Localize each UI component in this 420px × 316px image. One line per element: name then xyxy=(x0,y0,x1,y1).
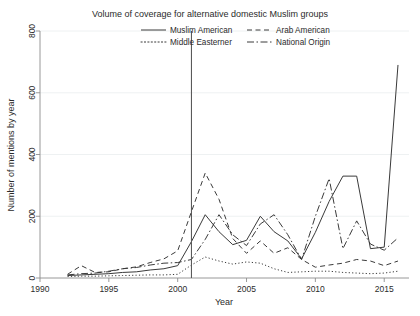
chart-legend: Muslim AmericanArab AmericanMiddle Easte… xyxy=(141,26,331,47)
tick-marks xyxy=(36,31,384,282)
gridlines xyxy=(40,31,409,216)
y-tick-label: 200 xyxy=(27,209,37,223)
y-tick-label: 600 xyxy=(27,85,37,99)
legend-label: Arab American xyxy=(276,26,330,35)
x-tick-label: 2015 xyxy=(375,284,394,294)
legend-label: National Origin xyxy=(276,38,331,47)
x-axis-title: Year xyxy=(215,297,233,307)
tick-labels: 0200400600800199019952000200520102015 xyxy=(27,24,394,294)
legend-label: Middle Easterner xyxy=(170,38,232,47)
series-line-arab-american xyxy=(68,173,398,274)
x-tick-label: 2000 xyxy=(168,284,187,294)
series-line-national-origin xyxy=(68,179,398,275)
series-lines xyxy=(68,65,398,277)
x-tick-label: 2005 xyxy=(237,284,256,294)
x-tick-label: 2010 xyxy=(306,284,325,294)
series-line-muslim-american xyxy=(68,65,398,276)
x-tick-label: 1995 xyxy=(99,284,118,294)
y-tick-label: 800 xyxy=(27,24,37,38)
y-tick-label: 400 xyxy=(27,147,37,161)
y-axis-title: Number of mentions by year xyxy=(6,98,16,211)
y-tick-label: 0 xyxy=(27,275,37,280)
chart-title: Volume of coverage for alternative domes… xyxy=(92,9,329,19)
legend-label: Muslim American xyxy=(170,26,233,35)
series-line-middle-easterner xyxy=(68,257,398,276)
line-chart: 0200400600800199019952000200520102015 Vo… xyxy=(0,0,420,316)
chart-figure: 0200400600800199019952000200520102015 Vo… xyxy=(0,0,420,316)
x-tick-label: 1990 xyxy=(31,284,50,294)
